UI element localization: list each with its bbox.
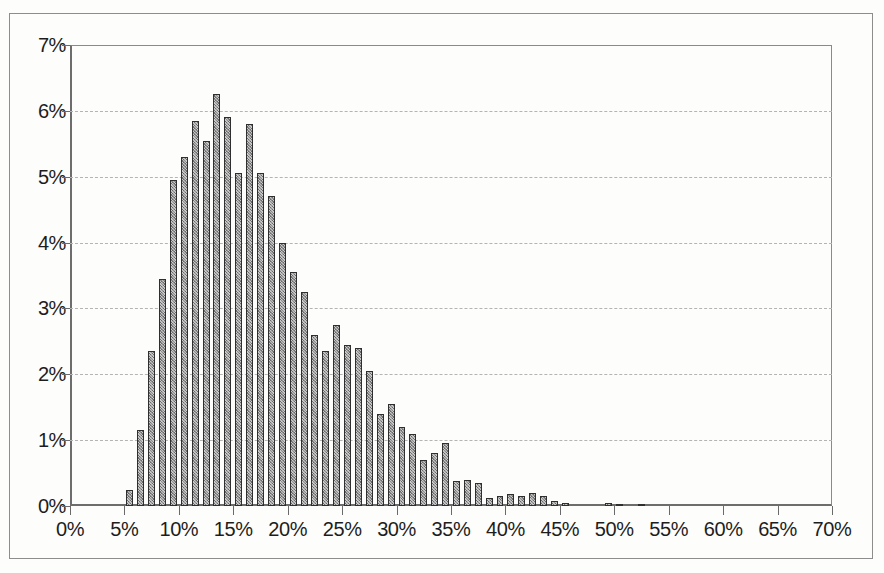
- histogram-screenshot: 0%1%2%3%4%5%6%7% 0%5%10%15%20%25%30%35%4…: [0, 0, 884, 573]
- bar: [431, 453, 438, 506]
- bar: [192, 121, 199, 506]
- bar: [616, 504, 623, 506]
- bar: [497, 496, 504, 506]
- x-tick-40: [505, 506, 506, 515]
- x-tick-5: [124, 506, 125, 515]
- bar: [464, 480, 471, 506]
- x-tick-65: [778, 506, 779, 515]
- x-tick-35: [451, 506, 452, 515]
- x-tick-15: [233, 506, 234, 515]
- bar: [181, 157, 188, 506]
- bar: [377, 414, 384, 506]
- bar: [290, 272, 297, 506]
- bar: [257, 173, 264, 506]
- x-tick-20: [288, 506, 289, 515]
- x-tick-30: [397, 506, 398, 515]
- bar: [562, 503, 569, 506]
- x-tick-45: [560, 506, 561, 515]
- bar: [170, 180, 177, 506]
- x-tick-10: [179, 506, 180, 515]
- bar: [518, 496, 525, 506]
- x-tick-0: [70, 506, 71, 515]
- bar: [148, 351, 155, 506]
- bar: [551, 501, 558, 506]
- bar: [279, 243, 286, 506]
- x-tick-50: [614, 506, 615, 515]
- bar: [203, 141, 210, 507]
- bar: [540, 496, 547, 506]
- bar: [486, 498, 493, 506]
- bar: [213, 94, 220, 506]
- bar: [453, 481, 460, 506]
- bar: [420, 460, 427, 506]
- bar: [529, 493, 536, 506]
- bar: [355, 348, 362, 506]
- x-tick-70: [832, 506, 833, 515]
- bar: [366, 371, 373, 506]
- x-tick-25: [342, 506, 343, 515]
- bar: [322, 351, 329, 506]
- bar: [137, 430, 144, 506]
- x-tick-label-70: 70%: [797, 518, 867, 541]
- bar: [224, 117, 231, 506]
- bar: [344, 345, 351, 506]
- bar: [235, 173, 242, 506]
- bar-series: [70, 45, 832, 506]
- bar: [442, 443, 449, 506]
- x-tick-55: [669, 506, 670, 515]
- bar: [507, 494, 514, 506]
- bar: [311, 335, 318, 506]
- bar: [126, 490, 133, 506]
- bar: [301, 292, 308, 506]
- bar: [399, 427, 406, 506]
- bar: [388, 404, 395, 506]
- bar: [605, 503, 612, 506]
- bar: [159, 279, 166, 506]
- bar: [268, 196, 275, 506]
- bar: [475, 483, 482, 506]
- bar: [409, 434, 416, 506]
- bar: [638, 504, 645, 506]
- bar: [246, 124, 253, 506]
- bar: [333, 325, 340, 506]
- x-tick-60: [723, 506, 724, 515]
